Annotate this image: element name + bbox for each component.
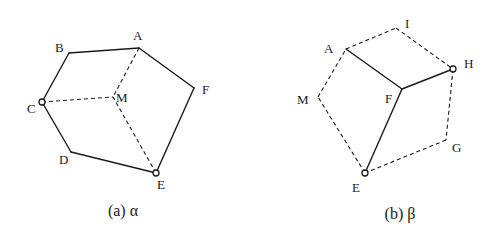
- alpha-caption: (a) α: [108, 202, 139, 220]
- beta-caption: (b) β: [385, 205, 416, 223]
- beta-edge-f-e: [365, 89, 402, 173]
- alpha-edge-e-f: [156, 88, 194, 173]
- beta-label-g: G: [452, 140, 461, 155]
- beta-edge-i-h: [396, 28, 453, 69]
- beta-label-m: M: [297, 92, 309, 107]
- alpha-label-d: D: [59, 152, 68, 167]
- beta-label-e: E: [352, 180, 360, 195]
- alpha-edge-c-m: [42, 97, 113, 102]
- alpha-edge-a-b: [69, 48, 139, 53]
- alpha-label-c: C: [27, 101, 36, 116]
- beta-label-f: F: [385, 91, 392, 106]
- alpha-node-e-circle: [153, 170, 159, 176]
- diagram-canvas: A B C D E F M (a) α A I H F M G E (b) β: [0, 0, 498, 238]
- beta-node-e-circle: [362, 170, 368, 176]
- beta-edge-a-f: [346, 49, 402, 89]
- beta-edge-f-h: [402, 69, 453, 89]
- beta-edge-h-g: [446, 69, 453, 140]
- figure-beta: A I H F M G E (b) β: [297, 16, 473, 223]
- alpha-label-a: A: [133, 28, 143, 43]
- alpha-label-b: B: [55, 40, 64, 55]
- alpha-edge-e-m: [113, 97, 156, 173]
- figure-alpha: A B C D E F M (a) α: [27, 28, 209, 220]
- beta-edge-m-a: [318, 49, 346, 97]
- alpha-edge-f-a: [139, 48, 194, 88]
- alpha-edge-c-d: [42, 102, 71, 152]
- alpha-edge-d-e: [71, 152, 156, 173]
- beta-label-i: I: [405, 16, 409, 31]
- beta-edge-e-m: [318, 97, 365, 173]
- alpha-label-f: F: [202, 82, 209, 97]
- beta-label-a: A: [324, 41, 334, 56]
- alpha-node-c-circle: [39, 99, 45, 105]
- beta-edge-a-i: [346, 28, 396, 49]
- alpha-label-e: E: [157, 177, 165, 192]
- beta-label-h: H: [464, 56, 473, 71]
- beta-node-h-circle: [450, 66, 456, 72]
- alpha-label-m: M: [116, 90, 128, 105]
- alpha-edge-b-c: [42, 53, 69, 102]
